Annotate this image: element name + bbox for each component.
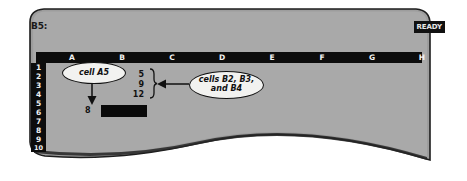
column-header-d[interactable]: D [212, 52, 232, 63]
row-header-3[interactable]: 3 [31, 81, 46, 90]
row-header-10[interactable]: 10 [31, 144, 46, 153]
cell-b4-value[interactable]: 12 [128, 90, 144, 99]
annotation-line-2: and B4 [199, 85, 254, 94]
annotation-cell-a5: cell A5 [62, 62, 126, 84]
row-header-1[interactable]: 1 [31, 63, 46, 72]
cell-reference-indicator: B5: [31, 21, 47, 31]
column-header-c[interactable]: C [162, 52, 182, 63]
cell-a5-value[interactable]: 8 [85, 106, 91, 115]
cell-b3-value[interactable]: 9 [128, 80, 144, 89]
row-header-9[interactable]: 9 [31, 135, 46, 144]
row-header-6[interactable]: 6 [31, 108, 46, 117]
row-header-4[interactable]: 4 [31, 90, 46, 99]
cell-b2-value[interactable]: 5 [128, 70, 144, 79]
screen-content: B5: READY ABCDEFGH 12345678910 5 9 12 8 … [0, 0, 467, 181]
screenshot-root: B5: READY ABCDEFGH 12345678910 5 9 12 8 … [0, 0, 467, 181]
column-header-a[interactable]: A [62, 52, 82, 63]
column-header-h[interactable]: H [412, 52, 432, 63]
annotation-cells-b2-b3-b4: cells B2, B3, and B4 [189, 71, 264, 99]
selected-cell-highlight[interactable] [101, 105, 147, 117]
row-header-2[interactable]: 2 [31, 72, 46, 81]
row-header-bar: 12345678910 [31, 63, 46, 152]
row-header-8[interactable]: 8 [31, 126, 46, 135]
status-badge-ready: READY [414, 21, 445, 33]
column-header-b[interactable]: B [112, 52, 132, 63]
row-header-7[interactable]: 7 [31, 117, 46, 126]
column-header-f[interactable]: F [312, 52, 332, 63]
row-header-5[interactable]: 5 [31, 99, 46, 108]
column-header-g[interactable]: G [362, 52, 382, 63]
column-header-e[interactable]: E [262, 52, 282, 63]
